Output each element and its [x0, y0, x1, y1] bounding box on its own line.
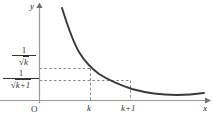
fraction-denominator: √k	[12, 56, 36, 68]
origin-label: O	[31, 105, 38, 114]
sqrt-group: √k	[19, 56, 29, 68]
x-tick-label-k: k	[87, 104, 91, 113]
y-axis-arrow	[36, 3, 42, 9]
x-axis-label: x	[203, 104, 207, 113]
x-tick-label-k-plus-1: k+1	[121, 104, 136, 113]
radicand: k	[23, 56, 29, 68]
y-value-label-upper: 1 √k	[12, 45, 36, 68]
fraction-numerator: 1	[12, 45, 36, 55]
fraction-numerator: 1	[3, 68, 39, 78]
y-value-label-lower: 1 √k+1	[3, 68, 39, 91]
radicand: k+1	[15, 79, 32, 91]
y-axis-label: y	[30, 2, 34, 11]
sqrt-group: √k+1	[11, 79, 32, 91]
figure-container: y x O k k+1 1 √k 1 √k+1	[0, 0, 213, 121]
function-curve	[62, 8, 204, 95]
fraction-denominator: √k+1	[3, 79, 39, 91]
